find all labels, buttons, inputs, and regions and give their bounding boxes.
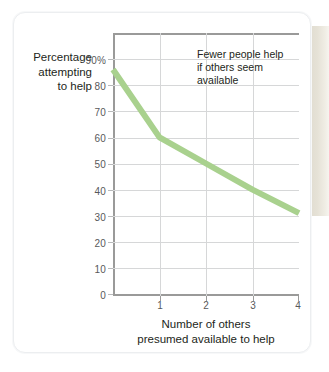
y-tick-label-40: 40 <box>72 186 106 197</box>
y-tick-label-20: 20 <box>72 238 106 249</box>
chart-annotation-line-3: available <box>197 74 295 87</box>
y-tick-label-60: 60 <box>72 133 106 144</box>
x-axis-title: Number of others presumed available to h… <box>113 317 299 346</box>
x-axis-title-line-2: presumed available to help <box>113 332 299 347</box>
x-tick-label-1: 1 <box>150 300 170 311</box>
y-tick-label-30: 30 <box>72 212 106 223</box>
figure-root: Percentage attempting to help 90% 80 70 … <box>0 0 329 372</box>
y-tick-label-0: 0 <box>72 290 106 301</box>
x-axis-title-line-1: Number of others <box>113 317 299 332</box>
y-tick-label-80: 80 <box>72 81 106 92</box>
chart-annotation: Fewer people help if others seem availab… <box>197 48 295 87</box>
data-series-line <box>113 70 299 214</box>
y-tick-label-50: 50 <box>72 159 106 170</box>
y-tick-label-90: 90% <box>72 55 106 66</box>
chart-annotation-line-2: if others seem <box>197 61 295 74</box>
x-tick-label-4: 4 <box>288 300 308 311</box>
chart-annotation-line-1: Fewer people help <box>197 48 295 61</box>
y-tick-label-10: 10 <box>72 264 106 275</box>
y-axis-title-line-2: attempting <box>14 65 92 80</box>
x-tick-label-3: 3 <box>243 300 263 311</box>
y-tick-label-70: 70 <box>72 107 106 118</box>
x-tick-label-2: 2 <box>196 300 216 311</box>
